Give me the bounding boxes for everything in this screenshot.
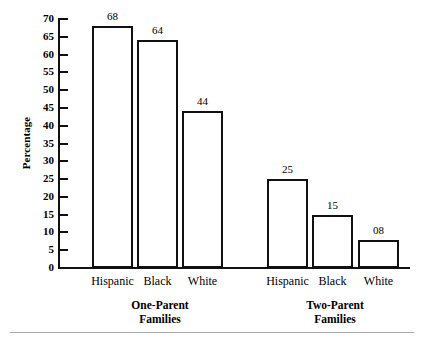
bar-value-label: 68 [82,11,143,22]
bar [92,26,133,268]
y-axis-tick-label: 15 [16,209,54,220]
y-axis-tick-label: 50 [16,84,54,95]
bar-value-label: 08 [348,225,409,236]
group-label: One-ParentFamilies [90,298,230,326]
y-axis-tick [60,107,68,109]
group-label: Two-ParentFamilies [265,298,405,326]
bar [358,240,399,268]
y-axis-tick-label: 5 [16,244,54,255]
bar [182,111,223,268]
y-axis-tick-label: 55 [16,66,54,77]
y-axis-tick [60,214,68,216]
y-axis-tick-label: 70 [16,13,54,24]
x-axis-category-label: White [168,274,237,288]
y-axis-tick [60,89,68,91]
y-axis-tick [60,196,68,198]
y-axis-tick [60,71,68,73]
y-axis-tick-label: 30 [16,155,54,166]
y-axis-tick-label: 25 [16,173,54,184]
y-axis-tick [60,36,68,38]
bar-value-label: 44 [172,96,233,107]
y-axis-tick [60,143,68,145]
y-axis-tick [60,267,68,269]
bar-value-label: 64 [127,25,188,36]
y-axis-tick-label: 35 [16,138,54,149]
group-label-line1: One-Parent [90,298,230,312]
x-axis-category-label: White [344,274,413,288]
group-label-line2: Families [90,312,230,326]
y-axis-tick-label: 10 [16,226,54,237]
group-label-line1: Two-Parent [265,298,405,312]
y-axis-tick [60,18,68,20]
bar-value-label: 15 [302,200,363,211]
y-axis-tick-label: 40 [16,120,54,131]
bottom-divider-rule [10,332,414,333]
y-axis-tick-label: 20 [16,191,54,202]
y-axis-tick [60,54,68,56]
y-axis-tick [60,160,68,162]
bar-value-label: 25 [257,164,318,175]
bar [137,40,178,268]
y-axis-tick-label: 60 [16,49,54,60]
bar [312,215,353,268]
bar [267,179,308,268]
y-axis-tick-label: 65 [16,31,54,42]
y-axis-tick-label: 0 [16,262,54,273]
bar-chart-figure: Percentage 7065605550454035302520151050 … [0,0,424,348]
y-axis-tick [60,125,68,127]
y-axis-tick-label: 45 [16,102,54,113]
y-axis-tick [60,231,68,233]
y-axis-tick [60,178,68,180]
group-label-line2: Families [265,312,405,326]
y-axis-tick [60,249,68,251]
